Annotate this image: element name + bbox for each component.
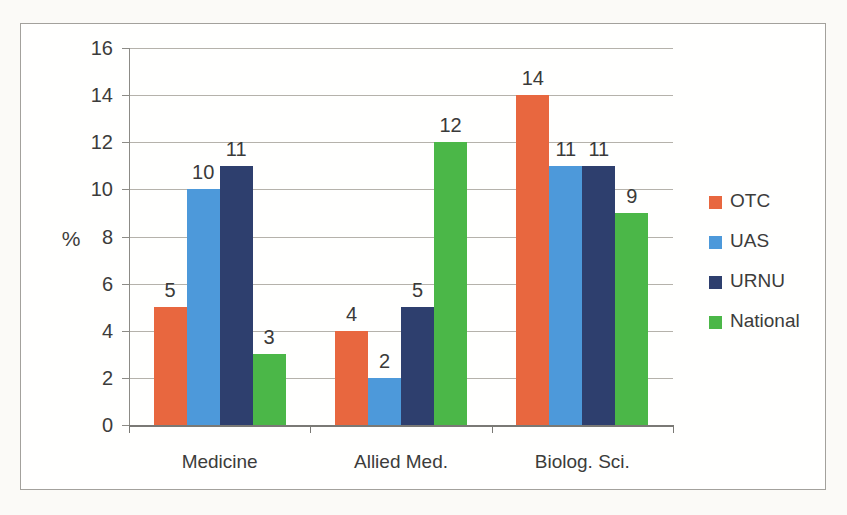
category-label-0: Medicine [129,451,310,473]
legend-label-uas: UAS [730,230,769,251]
legend-swatch-urnu-icon [709,276,722,289]
bar-urnu-0 [220,166,253,425]
y-axis-tick-mark-10 [122,189,129,190]
bar-uas-1 [368,378,401,425]
legend-label-otc: OTC [730,190,770,211]
bar-value-label-otc-1: 4 [328,302,376,326]
bar-value-label-urnu-0: 11 [212,137,260,161]
y-axis-tick-label-14: 14 [67,83,113,107]
y-axis-tick-label-16: 16 [67,36,113,60]
x-axis-tick-mark-2 [492,425,493,433]
y-axis-title: % [51,227,91,251]
y-axis-tick-mark-2 [122,378,129,379]
chart-figure: 510113425121411119 0246810121416 % Medic… [20,23,826,490]
bar-uas-0 [187,189,220,425]
legend-swatch-otc-icon [709,196,722,209]
gridline-y14 [129,95,673,96]
bar-otc-0 [154,307,187,425]
legend-item-uas: UAS [709,231,800,251]
bar-national-1 [434,142,467,425]
y-axis-tick-mark-4 [122,331,129,332]
bar-value-label-national-2: 9 [608,184,656,208]
legend-label-urnu: URNU [730,270,785,291]
y-axis-tick-label-0: 0 [67,413,113,437]
y-axis-tick-label-2: 2 [67,366,113,390]
category-label-2: Biolog. Sci. [492,451,673,473]
x-axis-tick-mark-1 [310,425,311,433]
y-axis-tick-label-10: 10 [67,177,113,201]
bar-otc-1 [335,331,368,425]
y-axis-tick-label-6: 6 [67,272,113,296]
bar-national-0 [253,354,286,425]
x-axis-tick-mark-0 [129,425,130,433]
screenshot-canvas: 510113425121411119 0246810121416 % Medic… [0,0,847,515]
y-axis-tick-mark-12 [122,142,129,143]
y-axis-tick-label-4: 4 [67,319,113,343]
legend-item-urnu: URNU [709,271,800,291]
legend-label-national: National [730,310,800,331]
bar-uas-2 [549,166,582,425]
gridline-y16 [129,48,673,49]
legend-item-otc: OTC [709,191,800,211]
y-axis-line [129,48,130,425]
y-axis-tick-mark-16 [122,48,129,49]
y-axis-tick-mark-6 [122,284,129,285]
bar-value-label-urnu-2: 11 [575,137,623,161]
bar-national-2 [615,213,648,425]
y-axis-tick-mark-0 [122,425,129,426]
category-label-1: Allied Med. [310,451,491,473]
y-axis-tick-mark-8 [122,237,129,238]
y-axis-tick-label-12: 12 [67,130,113,154]
x-axis-line [129,425,674,427]
legend: OTCUASURNUNational [709,191,800,351]
legend-item-national: National [709,311,800,331]
y-axis-tick-mark-14 [122,95,129,96]
bar-urnu-1 [401,307,434,425]
bar-value-label-otc-2: 14 [509,66,557,90]
legend-swatch-national-icon [709,316,722,329]
x-axis-tick-mark-3 [673,425,674,433]
bar-value-label-national-0: 3 [245,325,293,349]
bar-value-label-national-1: 12 [427,113,475,137]
legend-swatch-uas-icon [709,236,722,249]
